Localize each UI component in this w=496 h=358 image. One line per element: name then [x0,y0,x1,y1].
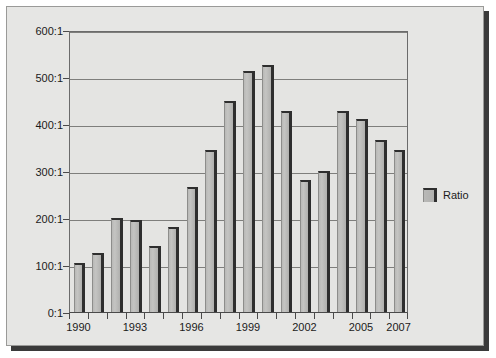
x-axis-tick-mark [352,313,353,319]
x-axis-tick-mark [163,313,164,319]
x-axis-tick-mark [88,313,89,319]
legend-label-ratio: Ratio [443,189,469,201]
y-axis-tick-label: 200:1 [9,214,63,224]
x-axis-tick-mark [295,313,296,319]
x-axis-tick-label: 2007 [386,321,410,333]
x-axis-tick-mark [126,313,127,319]
bar [300,180,312,312]
bar [92,253,104,312]
bar [168,227,180,312]
bar [74,263,86,312]
x-axis-tick-mark [239,313,240,319]
plot-area [69,31,408,313]
chart-legend: Ratio [423,188,469,202]
x-axis-tick-mark [276,313,277,319]
x-axis-tick-mark [107,313,108,319]
x-axis-tick-label: 1996 [179,321,203,333]
x-axis-labels: 1990199319961999200220052007 [69,321,408,337]
y-axis-tick-label: 0:1 [9,308,63,318]
x-axis-tick-label: 2005 [349,321,373,333]
x-axis-tick-mark [257,313,258,319]
bar [130,220,142,312]
bar [318,171,330,312]
x-axis-tick-mark [314,313,315,319]
x-axis-tick-mark [144,313,145,319]
x-axis-tick-mark [220,313,221,319]
x-axis-tick-label: 1993 [123,321,147,333]
bar [356,119,368,312]
bar [281,111,293,312]
y-axis-tick-label: 100:1 [9,261,63,271]
y-axis-tick-label: 500:1 [9,73,63,83]
bar [149,246,161,312]
x-axis-tick-mark [333,313,334,319]
y-axis-labels: 0:1100:1200:1300:1400:1500:1600:1 [7,31,63,313]
bar [394,150,406,312]
legend-swatch-ratio [423,188,437,202]
x-axis-tick-label: 1990 [66,321,90,333]
x-axis-tick-mark [69,313,70,319]
bar [111,218,123,312]
bar-series-ratio [70,32,407,312]
chart-container: 0:1100:1200:1300:1400:1500:1600:1 199019… [6,6,484,346]
x-axis-tick-label: 2002 [292,321,316,333]
bar [224,101,236,313]
x-axis-tick-mark [370,313,371,319]
y-axis-tick-label: 400:1 [9,120,63,130]
bar [337,111,349,312]
bar [243,71,255,312]
bar [187,187,199,312]
x-axis-tick-mark [389,313,390,319]
bar [375,140,387,312]
x-axis-tick-mark [407,313,408,319]
x-axis-tick-mark [182,313,183,319]
y-axis-tick-label: 600:1 [9,26,63,36]
bar [205,150,217,312]
bar [262,65,274,312]
x-axis-tick-mark [201,313,202,319]
x-axis-ticks [69,313,408,320]
y-axis-tick-label: 300:1 [9,167,63,177]
x-axis-tick-label: 1999 [236,321,260,333]
